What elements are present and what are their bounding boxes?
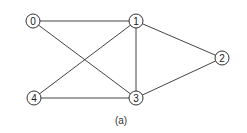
graph-diagram: 01234 (a)	[0, 0, 247, 133]
edges	[33, 21, 222, 98]
node-0: 0	[26, 14, 40, 28]
node-4: 4	[27, 91, 41, 105]
node-label: 4	[31, 93, 37, 104]
caption: (a)	[115, 115, 127, 126]
edge-1-2	[136, 21, 222, 58]
node-1: 1	[129, 14, 143, 28]
node-label: 0	[30, 16, 36, 27]
node-label: 2	[219, 53, 225, 64]
node-label: 3	[133, 93, 139, 104]
node-2: 2	[215, 51, 229, 65]
node-label: 1	[133, 16, 139, 27]
node-3: 3	[129, 91, 143, 105]
edge-2-3	[136, 58, 222, 98]
